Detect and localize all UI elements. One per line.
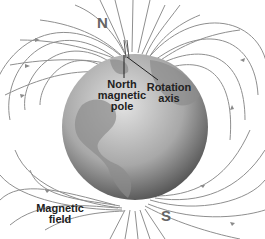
north-label: N [97, 14, 108, 31]
rotation-axis-label: Rotation axis [142, 82, 196, 104]
south-label: S [161, 207, 171, 224]
magnetic-field-label: Magnetic field [34, 203, 86, 225]
